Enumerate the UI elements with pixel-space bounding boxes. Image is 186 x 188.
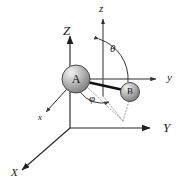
atom-label-A: A [70, 73, 82, 85]
axis-label-z: z [99, 3, 103, 14]
spherical-coordinate-diagram: Z Y X z y x θ φ A B [0, 0, 186, 188]
axis-label-X: X [11, 167, 18, 178]
projection-B-to-plane [123, 101, 129, 121]
angle-label-phi: φ [89, 93, 95, 104]
axis-X-line [22, 128, 70, 170]
space-fixed-axes [22, 36, 150, 170]
axis-label-Z: Z [63, 24, 70, 37]
axis-label-x: x [38, 113, 42, 122]
angle-label-theta: θ [110, 43, 115, 54]
axis-label-Y: Y [163, 121, 170, 134]
projection-phi-ray [103, 96, 123, 121]
atom-label-B: B [125, 87, 135, 96]
axis-label-y: y [167, 72, 172, 83]
